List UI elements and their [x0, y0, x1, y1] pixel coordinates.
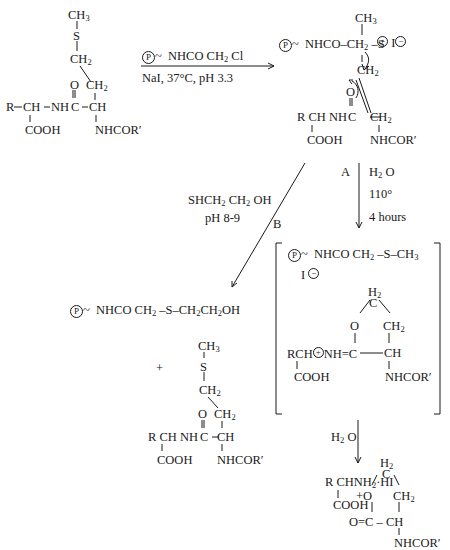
b-p2-rch-nh: R CH NH: [148, 431, 198, 444]
sm-alpha-ch: CH: [23, 101, 40, 114]
imino-ring-ch2: CH2: [383, 320, 405, 333]
plus-charge-icon: +: [313, 347, 324, 358]
imino-ring-o: O: [350, 320, 359, 333]
b-p2-sulfur: S: [200, 361, 207, 374]
sulf-ch2: CH2: [357, 64, 379, 77]
sm-ch2-a: CH2: [70, 53, 92, 66]
lactone-nhcor: NHCOR′: [394, 537, 441, 550]
reaction-scheme: CH3 S CH2 O CH2 R CH NH C CH COOH NHCOR′…: [0, 0, 450, 550]
sm-carbonyl-o: O: [70, 79, 79, 92]
sm-sulfur: S: [73, 30, 80, 43]
minus-charge-icon: −: [395, 36, 406, 47]
b-p2-methyl: CH3: [198, 340, 220, 353]
polymer-icon: P: [288, 249, 301, 262]
b-p2-carbonyl-o: O: [198, 408, 207, 421]
path-a-water: H2 O: [369, 166, 394, 179]
minus-charge-icon: −: [308, 268, 319, 279]
b-plus: +: [156, 362, 163, 375]
sm-nh: NH: [51, 101, 69, 114]
b-p2-nhcor: NHCOR′: [217, 454, 264, 467]
sulf-cooh: COOH: [307, 134, 342, 147]
imino-rch: RCH+NH=C: [287, 347, 357, 361]
b-p2-ch2-a: CH2: [199, 384, 221, 397]
imino-ring-ch: CH: [384, 347, 401, 360]
sm-r: R: [6, 101, 14, 114]
sulf-charge: + I−: [377, 36, 406, 50]
sm-ch2-b: CH2: [86, 79, 108, 92]
polymer-icon: P: [142, 51, 155, 64]
sulf-nhcor: NHCOR′: [370, 134, 417, 147]
sulf-top-chain: P~ NHCO–CH2 –S: [279, 38, 385, 52]
sm-methyl: CH3: [68, 9, 90, 22]
sulf-methyl: CH3: [355, 12, 377, 25]
sm-cooh: COOH: [25, 124, 60, 137]
sm-nhcor: NHCOR′: [95, 124, 142, 137]
lactone-ch2: CH2: [393, 490, 415, 503]
step1-conditions: NaI, 37°C, pH 3.3: [142, 72, 233, 85]
step1-reagent: P~ NHCO CH2 Cl: [142, 50, 243, 64]
plus-charge-icon: +: [377, 36, 388, 47]
lactone-ring-o: +O: [356, 490, 372, 503]
imino-nhcor: NHCOR′: [385, 371, 432, 384]
path-b-label: B: [273, 218, 281, 231]
lactone-carbonyl: O=C – CH: [349, 516, 403, 529]
sulf-rch-nh: R CH NH: [297, 111, 347, 124]
imino-iodide: I −: [301, 268, 319, 282]
path-a-time: 4 hours: [369, 211, 406, 224]
sulf-ch2-b: CH2: [370, 111, 392, 124]
imino-ring-c: C: [369, 297, 377, 310]
hydrolysis-water: H2 O: [331, 431, 356, 444]
b-product1: P~ NHCO CH2 –S–CH2CH2OH: [70, 304, 240, 318]
imino-cooh: COOH: [294, 371, 329, 384]
b-p2-cooh: COOH: [157, 454, 192, 467]
sm-c: C: [71, 101, 79, 114]
path-b-ph: pH 8-9: [205, 212, 240, 225]
path-b-reagent: SHCH2 CH2 OH: [188, 194, 272, 207]
sulf-carbonyl-o: O: [346, 86, 355, 99]
b-p2-ch2-b: CH2: [214, 408, 236, 421]
lactone-c: C: [382, 468, 390, 481]
polymer-icon: P: [70, 305, 83, 318]
sm-ch: CH: [89, 101, 106, 114]
path-a-label: A: [341, 166, 350, 179]
b-p2-c: C: [200, 431, 208, 444]
polymer-icon: P: [279, 39, 292, 52]
path-a-temp: 110°: [369, 188, 392, 201]
sulf-c: C: [348, 111, 356, 124]
imino-top-chain: P~ NHCO CH2 –S–CH3: [288, 248, 418, 262]
b-p2-ch: CH: [217, 431, 234, 444]
